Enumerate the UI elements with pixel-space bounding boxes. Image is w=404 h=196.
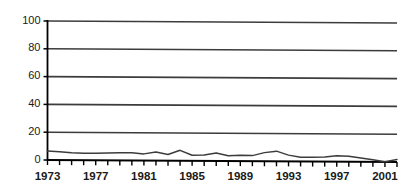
line-chart: 100806040200 197319771981198519891993199… [0, 0, 404, 196]
x-tick-label-1989: 1989 [215, 170, 265, 182]
y-tick-label-100: 100 [22, 14, 40, 26]
x-tick-label-1997: 1997 [312, 170, 362, 182]
y-tick-label-40: 40 [28, 97, 40, 109]
y-tick-label-0: 0 [34, 153, 40, 165]
gridline-100 [48, 21, 398, 23]
x-tick-label-1985: 1985 [167, 170, 217, 182]
gridline-60 [48, 77, 398, 79]
x-axis-line [48, 160, 398, 162]
x-tick-label-1993: 1993 [264, 170, 314, 182]
x-tick-label-1981: 1981 [119, 170, 169, 182]
y-tick-label-20: 20 [28, 125, 40, 137]
x-tick-label-2001: 2001 [360, 170, 404, 182]
axes-group [48, 20, 398, 162]
x-tick-label-1973: 1973 [23, 170, 73, 182]
gridline-80 [48, 49, 398, 51]
gridline-20 [48, 132, 398, 134]
y-tick-label-80: 80 [28, 41, 40, 53]
y-tick-label-60: 60 [28, 69, 40, 81]
x-tick-label-1977: 1977 [71, 170, 121, 182]
chart-plot-area [0, 0, 404, 196]
gridline-40 [48, 104, 398, 106]
gridlines-group [48, 21, 398, 134]
